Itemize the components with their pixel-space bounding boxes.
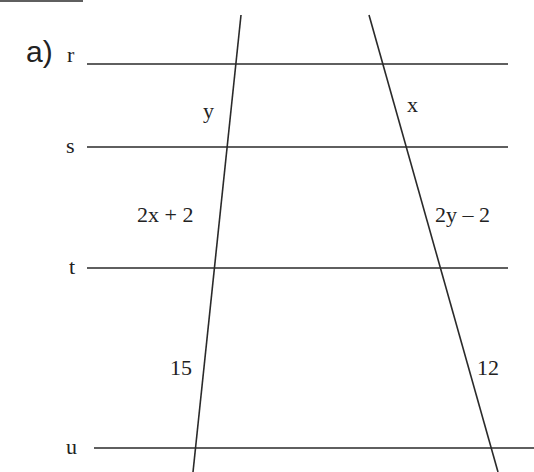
transversal-right <box>369 15 498 472</box>
segment-label-right-tu: 12 <box>477 355 499 380</box>
transversal-left <box>193 15 241 472</box>
segment-label-right-rs: x <box>407 92 418 117</box>
line-t-label: t <box>69 254 75 279</box>
segment-label-left-tu: 15 <box>170 355 192 380</box>
line-u-label: u <box>66 434 77 459</box>
segment-label-left-rs: y <box>203 98 214 123</box>
part-label: a) <box>26 35 53 68</box>
segment-label-right-st: 2y – 2 <box>435 202 490 227</box>
parallel-lines-transversal-diagram: a) r s t u y x 2x + 2 2y – 2 15 12 <box>0 0 534 472</box>
line-s-label: s <box>66 133 75 158</box>
segment-label-left-st: 2x + 2 <box>137 202 193 227</box>
line-r-label: r <box>67 42 75 67</box>
